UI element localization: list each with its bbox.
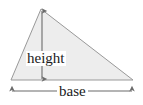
base-label: base [57,84,88,99]
triangle-area-diagram: height base [0,0,143,105]
height-label: height [26,51,66,66]
triangle-shape [11,9,133,80]
